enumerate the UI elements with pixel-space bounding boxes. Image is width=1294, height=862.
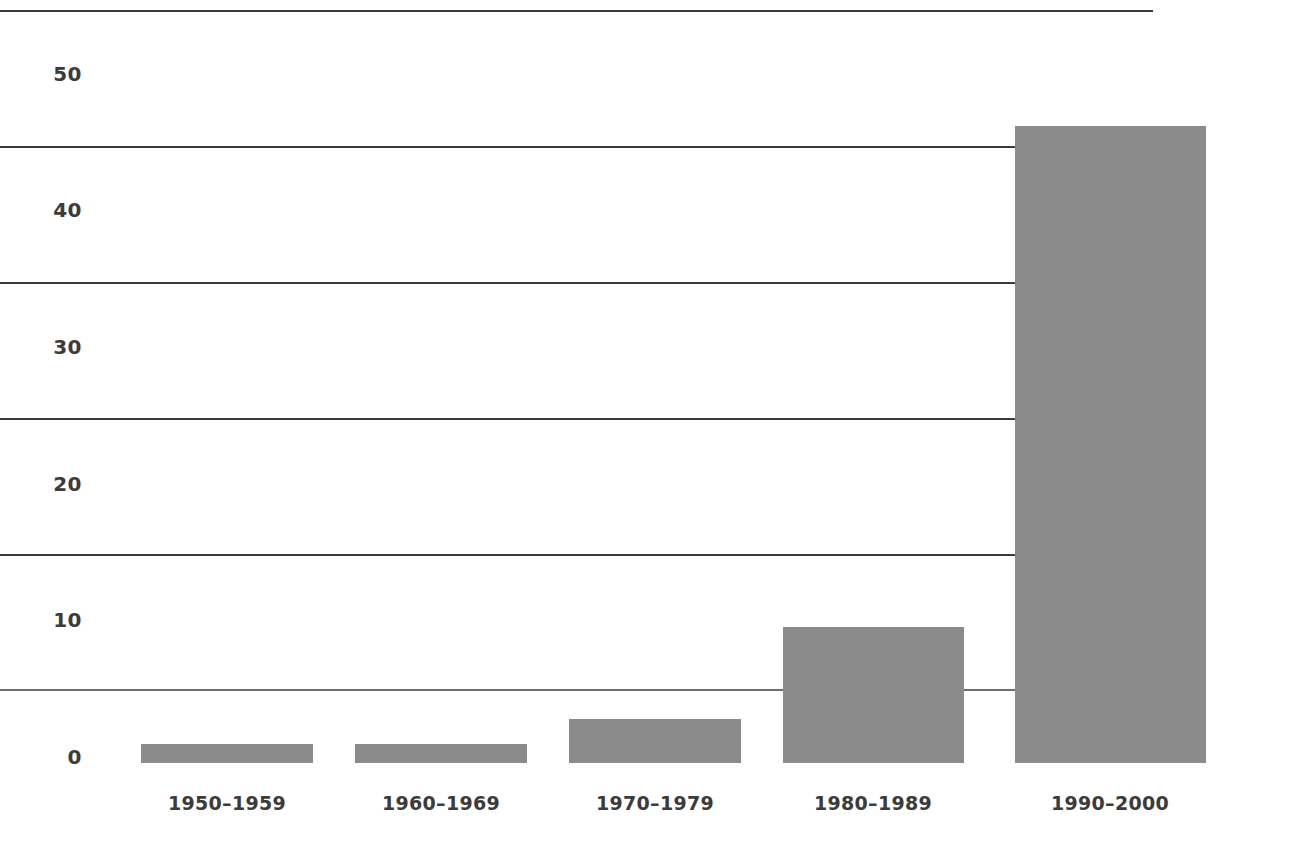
x-axis-tick-label-1990-2000: 1990–2000	[1030, 793, 1190, 814]
bars-layer	[0, 0, 1294, 862]
bar-1980-1989	[783, 627, 964, 763]
x-axis-tick-label-1980-1989: 1980–1989	[793, 793, 953, 814]
x-axis-tick-label-1950-1959: 1950–1959	[147, 793, 307, 814]
bar-chart: 50 40 30 20 10 0 1950–1959 1960–1969 197…	[0, 0, 1294, 862]
x-axis-tick-label-1960-1969: 1960–1969	[361, 793, 521, 814]
bar-1960-1969	[355, 744, 527, 763]
bar-1970-1979	[569, 719, 741, 763]
bar-1950-1959	[141, 744, 313, 763]
bar-1990-2000	[1015, 126, 1206, 763]
x-axis-tick-label-1970-1979: 1970–1979	[575, 793, 735, 814]
